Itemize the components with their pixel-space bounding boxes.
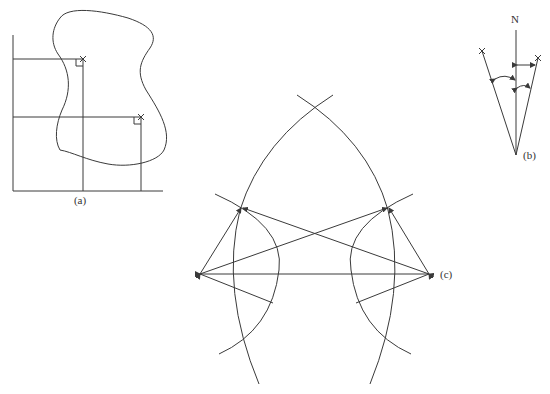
bearing-line-right [516,58,538,155]
panel-c-label: (c) [440,268,453,281]
large-arc-left [233,95,333,384]
radius-line-left [200,274,273,303]
bearing-line-left [482,51,516,155]
ray-a-d [200,208,387,274]
diagram-canvas: (a) N (b) [0,0,550,394]
angle-arc-left [495,76,515,80]
north-label: N [511,13,519,25]
panel-b: N (b) [479,13,541,162]
irregular-boundary [53,10,167,165]
large-arc-right [297,95,395,384]
point-marker-left [479,48,485,54]
ray-b-c [243,208,429,274]
angle-arc-right [517,86,530,89]
panel-a-label: (a) [74,194,87,207]
panel-b-label: (b) [523,149,536,162]
panel-a: (a) [13,10,167,207]
panel-c: (c) [200,95,453,384]
